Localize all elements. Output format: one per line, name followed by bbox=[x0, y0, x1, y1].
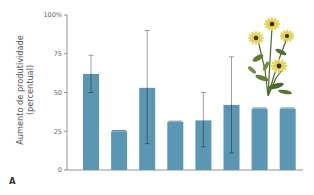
bars bbox=[83, 74, 296, 170]
y-tick-label: 50 bbox=[54, 89, 62, 97]
flower-center-icon bbox=[277, 64, 282, 69]
flower-center-icon bbox=[254, 36, 258, 40]
bar-chart: 0255075100% bbox=[0, 0, 314, 195]
flower-center-icon bbox=[285, 34, 289, 38]
y-tick-label: 100% bbox=[43, 11, 62, 19]
y-tick-label: 75 bbox=[54, 50, 62, 58]
flower-center-icon bbox=[270, 22, 274, 26]
bar bbox=[111, 131, 127, 170]
y-tick-label: 0 bbox=[58, 166, 62, 174]
bar bbox=[252, 109, 268, 170]
bar bbox=[167, 122, 183, 170]
y-tick-label: 25 bbox=[54, 128, 62, 136]
bar bbox=[280, 109, 296, 170]
